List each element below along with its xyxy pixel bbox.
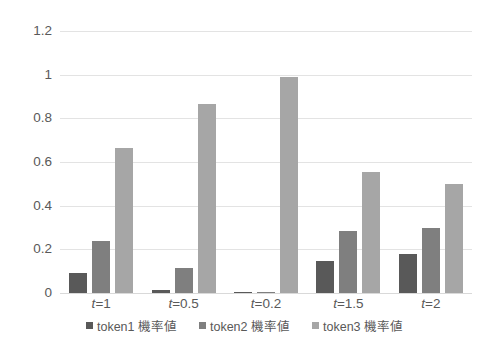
y-axis-tick-label: 0.6 bbox=[6, 155, 52, 169]
y-axis-tick-label: 1.2 bbox=[6, 24, 52, 38]
bar-group bbox=[307, 31, 389, 293]
chart-legend: token1 機率値token2 機率値token3 機率値 bbox=[0, 316, 489, 335]
bar-slot bbox=[362, 31, 380, 293]
bar[interactable] bbox=[316, 261, 334, 293]
bar[interactable] bbox=[422, 228, 440, 294]
bar-slot bbox=[69, 31, 87, 293]
x-axis-labels: t=1t=0.5t=0.2t=1.5t=2 bbox=[60, 296, 472, 316]
bar-groups bbox=[60, 31, 472, 293]
y-axis-tick-label: 1 bbox=[6, 68, 52, 82]
bar[interactable] bbox=[280, 77, 298, 293]
bar-slot bbox=[198, 31, 216, 293]
legend-swatch-icon bbox=[199, 322, 206, 329]
bar-slot bbox=[115, 31, 133, 293]
y-axis-tick-label: 0.2 bbox=[6, 243, 52, 257]
x-axis-line bbox=[60, 293, 472, 294]
y-axis-tick-label: 0.4 bbox=[6, 199, 52, 213]
bar[interactable] bbox=[198, 104, 216, 293]
bar-group bbox=[225, 31, 307, 293]
bar[interactable] bbox=[152, 290, 170, 293]
bar-slot bbox=[422, 31, 440, 293]
bar-group bbox=[142, 31, 224, 293]
bar-slot bbox=[316, 31, 334, 293]
bar-slot bbox=[175, 31, 193, 293]
legend-label: token2 機率値 bbox=[210, 316, 290, 335]
bar-slot bbox=[234, 31, 252, 293]
legend-swatch-icon bbox=[312, 322, 319, 329]
bar-slot bbox=[399, 31, 417, 293]
x-axis-tick-label: t=0.2 bbox=[225, 296, 307, 316]
legend-item[interactable]: token3 機率値 bbox=[312, 316, 403, 335]
bar[interactable] bbox=[115, 148, 133, 293]
bar[interactable] bbox=[69, 273, 87, 293]
x-axis-value: =1.5 bbox=[337, 296, 364, 311]
bar[interactable] bbox=[445, 184, 463, 293]
x-axis-tick-label: t=0.5 bbox=[142, 296, 224, 316]
bar-slot bbox=[152, 31, 170, 293]
y-axis-tick-label: 0 bbox=[6, 286, 52, 300]
x-axis-value: =2 bbox=[425, 296, 440, 311]
legend-label: token3 機率値 bbox=[323, 316, 403, 335]
legend-item[interactable]: token2 機率値 bbox=[199, 316, 290, 335]
bar[interactable] bbox=[339, 231, 357, 293]
bar[interactable] bbox=[362, 172, 380, 293]
bar-slot bbox=[257, 31, 275, 293]
bar-slot bbox=[339, 31, 357, 293]
x-axis-value: =0.2 bbox=[255, 296, 282, 311]
bar[interactable] bbox=[257, 292, 275, 293]
legend-label: token1 機率値 bbox=[97, 316, 177, 335]
bar-group bbox=[390, 31, 472, 293]
bar[interactable] bbox=[92, 241, 110, 293]
bar-slot bbox=[280, 31, 298, 293]
bar-slot bbox=[92, 31, 110, 293]
x-axis-value: =1 bbox=[95, 296, 110, 311]
bar[interactable] bbox=[399, 254, 417, 293]
x-axis-tick-label: t=2 bbox=[390, 296, 472, 316]
bar-group bbox=[60, 31, 142, 293]
x-axis-tick-label: t=1 bbox=[60, 296, 142, 316]
legend-item[interactable]: token1 機率値 bbox=[86, 316, 177, 335]
bar-slot bbox=[445, 31, 463, 293]
x-axis-value: =0.5 bbox=[172, 296, 199, 311]
y-axis: 00.20.40.60.811.2 bbox=[0, 31, 52, 293]
bar[interactable] bbox=[175, 268, 193, 293]
bar-chart: 00.20.40.60.811.2 t=1t=0.5t=0.2t=1.5t=2 … bbox=[0, 0, 489, 342]
y-axis-tick-label: 0.8 bbox=[6, 112, 52, 126]
legend-swatch-icon bbox=[86, 322, 93, 329]
x-axis-tick-label: t=1.5 bbox=[307, 296, 389, 316]
bar[interactable] bbox=[234, 292, 252, 293]
